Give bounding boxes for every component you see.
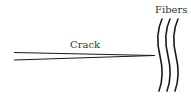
fiber-1 bbox=[158, 19, 163, 91]
crack-lower-edge bbox=[14, 56, 155, 61]
fiber-2 bbox=[166, 19, 171, 91]
crack-upper-edge bbox=[14, 53, 155, 56]
fiber-3 bbox=[174, 19, 179, 91]
fibers bbox=[158, 19, 179, 91]
crack bbox=[14, 53, 155, 61]
crack-fiber-diagram: Crack Fibers bbox=[0, 0, 191, 97]
fibers-label: Fibers bbox=[155, 4, 187, 15]
crack-label: Crack bbox=[70, 39, 101, 50]
